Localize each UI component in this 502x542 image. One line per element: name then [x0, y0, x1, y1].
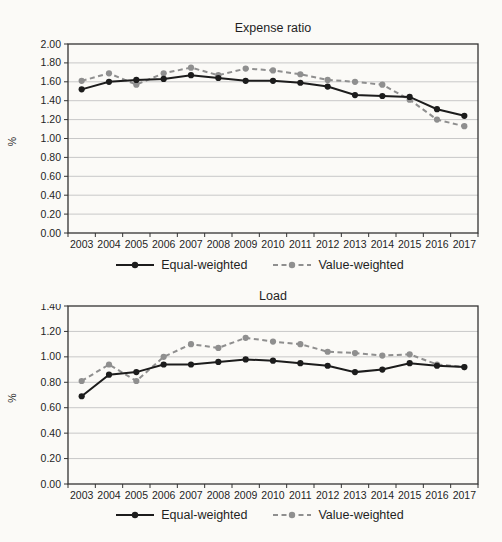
legend-item-value-weighted: Value-weighted [273, 258, 403, 272]
svg-text:1.00: 1.00 [41, 132, 62, 144]
svg-text:0.20: 0.20 [41, 208, 62, 220]
svg-text:2014: 2014 [371, 238, 395, 250]
expense-ratio-legend: Equal-weighted Value-weighted [55, 256, 465, 274]
svg-text:0.40: 0.40 [41, 189, 62, 201]
load-chart: Load 0.000.200.400.600.801.001.201.40200… [0, 288, 502, 524]
svg-text:2011: 2011 [289, 238, 312, 250]
load-plot: 0.000.200.400.600.801.001.201.4020032004… [0, 304, 502, 506]
svg-text:2009: 2009 [234, 489, 258, 501]
svg-text:2012: 2012 [316, 238, 340, 250]
svg-text:2014: 2014 [371, 489, 395, 501]
svg-text:2015: 2015 [398, 489, 422, 501]
svg-text:2006: 2006 [152, 489, 176, 501]
svg-text:1.40: 1.40 [41, 304, 62, 312]
svg-text:2010: 2010 [261, 489, 285, 501]
svg-text:2011: 2011 [289, 489, 312, 501]
svg-text:2010: 2010 [261, 238, 285, 250]
svg-text:2005: 2005 [125, 489, 149, 501]
legend-label-equal-weighted: Equal-weighted [161, 508, 247, 522]
legend-item-equal-weighted: Equal-weighted [116, 258, 247, 272]
svg-text:2005: 2005 [125, 238, 149, 250]
load-legend: Equal-weighted Value-weighted [55, 506, 465, 524]
svg-text:%: % [6, 393, 18, 402]
svg-text:2003: 2003 [70, 238, 94, 250]
svg-text:1.00: 1.00 [41, 350, 62, 362]
svg-text:2.00: 2.00 [41, 38, 62, 50]
svg-text:2007: 2007 [179, 489, 203, 501]
svg-text:2006: 2006 [152, 238, 176, 250]
svg-text:0.80: 0.80 [41, 376, 62, 388]
svg-text:2007: 2007 [179, 238, 203, 250]
svg-text:1.80: 1.80 [41, 56, 62, 68]
legend-item-equal-weighted: Equal-weighted [116, 508, 247, 522]
svg-text:2012: 2012 [316, 489, 340, 501]
svg-text:2017: 2017 [453, 238, 477, 250]
svg-text:0.60: 0.60 [41, 401, 62, 413]
svg-text:0.00: 0.00 [41, 478, 62, 490]
legend-item-value-weighted: Value-weighted [273, 508, 403, 522]
value-weighted-line-icon [273, 510, 311, 520]
svg-text:2013: 2013 [343, 238, 367, 250]
figure-page: Expense ratio 0.000.200.400.600.801.001.… [0, 0, 502, 542]
svg-text:2013: 2013 [343, 489, 367, 501]
svg-text:2008: 2008 [207, 238, 231, 250]
svg-text:1.40: 1.40 [41, 94, 62, 106]
load-title: Load [68, 288, 478, 304]
svg-text:1.20: 1.20 [41, 325, 62, 337]
svg-text:0.00: 0.00 [41, 227, 62, 239]
svg-text:0.60: 0.60 [41, 170, 62, 182]
legend-label-equal-weighted: Equal-weighted [161, 258, 247, 272]
svg-text:2003: 2003 [70, 489, 94, 501]
expense-ratio-title: Expense ratio [68, 18, 478, 38]
legend-label-value-weighted: Value-weighted [318, 508, 403, 522]
svg-text:2004: 2004 [97, 238, 121, 250]
svg-text:2015: 2015 [398, 238, 422, 250]
value-weighted-line-icon [273, 260, 311, 270]
svg-text:%: % [6, 137, 18, 146]
svg-text:0.20: 0.20 [41, 452, 62, 464]
svg-text:2017: 2017 [453, 489, 477, 501]
svg-text:0.80: 0.80 [41, 151, 62, 163]
expense-ratio-plot: 0.000.200.400.600.801.001.201.401.601.80… [0, 38, 502, 256]
svg-text:1.60: 1.60 [41, 75, 62, 87]
equal-weighted-line-icon [116, 510, 154, 520]
svg-text:2008: 2008 [207, 489, 231, 501]
svg-text:2004: 2004 [97, 489, 121, 501]
legend-label-value-weighted: Value-weighted [318, 258, 403, 272]
svg-text:2016: 2016 [425, 238, 449, 250]
svg-text:2009: 2009 [234, 238, 258, 250]
equal-weighted-line-icon [116, 260, 154, 270]
expense-ratio-chart: Expense ratio 0.000.200.400.600.801.001.… [0, 18, 502, 274]
svg-text:1.20: 1.20 [41, 113, 62, 125]
svg-text:2016: 2016 [425, 489, 449, 501]
svg-text:0.40: 0.40 [41, 427, 62, 439]
